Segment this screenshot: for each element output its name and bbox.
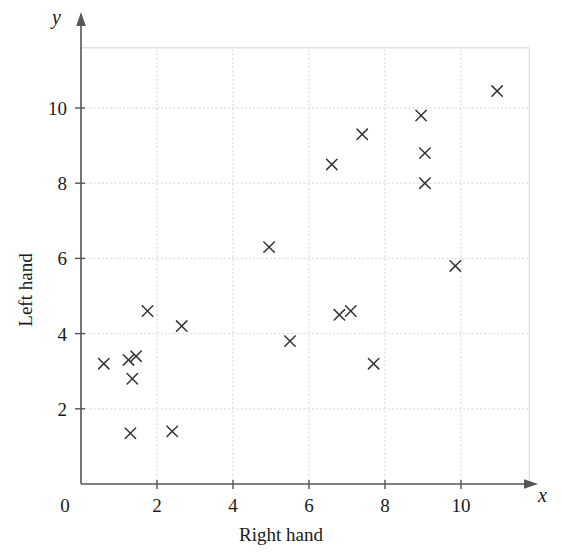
x-tick-label: 6 (304, 496, 314, 515)
gridlines (81, 48, 529, 484)
axis-ticks (75, 108, 461, 489)
data-point (127, 374, 137, 384)
x-tick-label: 0 (60, 496, 70, 515)
y-tick-label: 2 (58, 399, 68, 418)
plot-canvas (0, 0, 562, 556)
x-axis-arrowhead (524, 479, 538, 489)
data-point (177, 321, 187, 331)
scatter-plot-figure: 0246810246810 y x Right hand Left hand (0, 0, 562, 556)
x-axis-symbol: x (538, 484, 547, 507)
y-tick-label: 4 (58, 324, 68, 343)
axis-lines (76, 12, 538, 489)
data-point (327, 159, 337, 169)
data-point (420, 148, 430, 158)
data-point (357, 129, 367, 139)
data-markers (99, 86, 503, 439)
x-tick-label: 8 (380, 496, 390, 515)
x-tick-label: 4 (228, 496, 238, 515)
x-axis-title: Right hand (239, 524, 323, 546)
y-tick-label: 8 (58, 174, 68, 193)
data-point (125, 428, 135, 438)
y-axis-symbol: y (52, 6, 61, 29)
data-point (285, 336, 295, 346)
data-point (334, 310, 344, 320)
data-point (450, 261, 460, 271)
data-point (142, 306, 152, 316)
data-point (264, 242, 274, 252)
y-axis-arrowhead (76, 12, 86, 26)
data-point (167, 426, 177, 436)
data-point (99, 358, 109, 368)
data-point (346, 306, 356, 316)
plot-frame (81, 48, 529, 484)
y-axis-title: Left hand (15, 253, 37, 326)
data-point (492, 86, 502, 96)
x-tick-label: 2 (152, 496, 162, 515)
y-tick-label: 6 (58, 249, 68, 268)
x-tick-label: 10 (452, 496, 471, 515)
y-tick-label: 10 (48, 99, 67, 118)
data-point (368, 358, 378, 368)
data-point (416, 110, 426, 120)
